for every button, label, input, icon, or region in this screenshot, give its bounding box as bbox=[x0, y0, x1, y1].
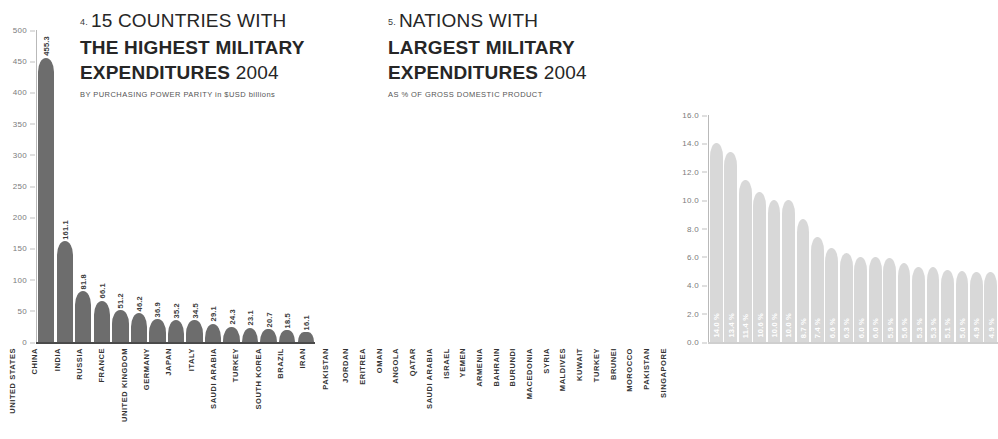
right-chart-bar-slot: 5.1 % bbox=[940, 115, 954, 342]
left-chart-category-label: UNITED STATES bbox=[8, 348, 17, 414]
right-chart-bar-value-label: 5.3 % bbox=[929, 318, 938, 338]
right-chart-bar-value-label: 5.6 % bbox=[900, 318, 909, 338]
right-chart-category-slot: BAHRAIN bbox=[487, 346, 504, 436]
right-chart-bar[interactable]: 5.3 % bbox=[912, 267, 925, 342]
right-chart-bar-slot: 8.7 % bbox=[796, 115, 810, 342]
left-chart-category-label: SOUTH KOREA bbox=[253, 348, 262, 409]
left-chart-bar[interactable]: 18.5 bbox=[279, 330, 295, 342]
left-chart-bar[interactable]: 51.2 bbox=[112, 310, 128, 342]
right-chart-title-text1: NATIONS WITH bbox=[399, 10, 538, 31]
left-chart-bar[interactable]: 66.1 bbox=[94, 301, 110, 342]
right-chart-category-slot: SAUDI ARABIA bbox=[421, 346, 438, 436]
left-chart-plot-area: 500450400350300250200150100500 455.3161.… bbox=[36, 30, 315, 342]
left-chart-bars: 455.3161.181.866.151.246.236.935.234.529… bbox=[37, 30, 315, 342]
chart-panel-military-expenditures-usd: 4.15 COUNTRIES WITH THE HIGHEST MILITARY… bbox=[0, 0, 336, 439]
left-chart-y-tick: 150 bbox=[13, 244, 36, 253]
left-chart-x-axis bbox=[36, 342, 315, 344]
right-chart-category-slot: BRUNEI bbox=[604, 346, 621, 436]
right-chart-bar[interactable]: 7.4 % bbox=[811, 237, 824, 342]
left-chart-bar[interactable]: 24.3 bbox=[223, 327, 239, 342]
right-chart-bar-slot: 10.0 % bbox=[767, 115, 781, 342]
right-chart-title-line3: EXPENDITURES 2004 bbox=[388, 60, 658, 85]
left-chart-bar[interactable]: 23.1 bbox=[242, 328, 258, 342]
left-chart-y-tick: 500 bbox=[13, 26, 36, 35]
right-chart-bar[interactable]: 4.9 % bbox=[970, 272, 983, 342]
right-chart-bar[interactable]: 6.3 % bbox=[840, 253, 853, 342]
right-chart-bar[interactable]: 5.1 % bbox=[941, 270, 954, 342]
right-chart-bar[interactable]: 10.0 % bbox=[768, 200, 781, 342]
left-chart-bar[interactable]: 35.2 bbox=[168, 320, 184, 342]
right-chart-number: 5. bbox=[388, 17, 396, 27]
left-chart-bar[interactable]: 34.5 bbox=[186, 320, 202, 342]
right-chart-bar[interactable]: 13.4 % bbox=[724, 152, 737, 342]
left-chart-bar-value-label: 36.9 bbox=[153, 302, 162, 317]
right-chart-bar[interactable]: 4.9 % bbox=[984, 272, 997, 342]
left-chart-bar[interactable]: 36.9 bbox=[149, 319, 165, 342]
right-chart-bar-value-label: 7.4 % bbox=[813, 318, 822, 338]
left-chart-bar-value-label: 18.5 bbox=[283, 313, 292, 328]
right-chart-bar-slot: 5.9 % bbox=[882, 115, 896, 342]
left-chart-category-slot: INDIA bbox=[46, 346, 68, 436]
right-chart-category-slot: ISRAEL bbox=[437, 346, 454, 436]
right-chart-bar[interactable]: 5.0 % bbox=[956, 271, 969, 342]
right-chart-bar[interactable]: 6.0 % bbox=[869, 257, 882, 342]
right-chart-bar[interactable]: 5.6 % bbox=[898, 263, 911, 342]
left-chart-bar[interactable]: 16.1 bbox=[298, 332, 314, 342]
right-chart-category-label: ANGOLA bbox=[391, 348, 400, 384]
left-chart-bar-value-label: 35.2 bbox=[171, 303, 180, 318]
right-chart-bar[interactable]: 5.9 % bbox=[883, 258, 896, 342]
right-chart-bar[interactable]: 6.6 % bbox=[825, 248, 838, 342]
right-chart-bar[interactable]: 14.0 % bbox=[710, 143, 723, 342]
left-chart-category-label: BRAZIL bbox=[276, 348, 285, 379]
left-chart-category-slot: CHINA bbox=[23, 346, 45, 436]
right-chart-y-tick: 0.0 bbox=[687, 338, 708, 347]
right-chart-category-slot: JORDAN bbox=[337, 346, 354, 436]
left-chart-bar-slot: 23.1 bbox=[241, 30, 260, 342]
right-chart-category-slot: BURUNDI bbox=[504, 346, 521, 436]
right-chart-category-slot: YEMEN bbox=[454, 346, 471, 436]
left-chart-bar[interactable]: 161.1 bbox=[57, 241, 73, 342]
right-chart-bar-value-label: 10.0 % bbox=[770, 313, 779, 338]
right-chart-title-line1: 5.NATIONS WITH bbox=[388, 8, 658, 35]
right-chart-plot-area: 16.014.012.010.08.06.04.02.00.0 14.0 %13… bbox=[708, 115, 998, 342]
chart-panel-military-expenditures-gdp: 5.NATIONS WITH LARGEST MILITARY EXPENDIT… bbox=[336, 0, 671, 439]
right-chart-category-slot: QATAR bbox=[404, 346, 421, 436]
left-chart-category-slot: TURKEY bbox=[224, 346, 246, 436]
right-chart-y-tick: 14.0 bbox=[682, 139, 708, 148]
right-chart-category-label: SAUDI ARABIA bbox=[424, 348, 433, 409]
left-chart-bar-slot: 35.2 bbox=[167, 30, 186, 342]
right-chart-bar[interactable]: 10.0 % bbox=[782, 200, 795, 342]
left-chart-category-label: UNITED KINGDOM bbox=[119, 348, 128, 422]
left-chart-bar-slot: 18.5 bbox=[278, 30, 297, 342]
right-chart-bar[interactable]: 5.3 % bbox=[927, 267, 940, 342]
left-chart-category-slot: UNITED STATES bbox=[1, 346, 23, 436]
left-chart-bar[interactable]: 29.1 bbox=[205, 324, 221, 342]
right-chart-bar[interactable]: 11.4 % bbox=[739, 180, 752, 342]
left-chart-bar[interactable]: 20.7 bbox=[260, 329, 276, 342]
right-chart-bar-value-label: 6.6 % bbox=[827, 318, 836, 338]
right-chart-bar-slot: 6.3 % bbox=[839, 115, 853, 342]
right-chart-y-tick: 12.0 bbox=[682, 167, 708, 176]
left-chart-y-tick: 200 bbox=[13, 213, 36, 222]
right-chart-y-tick: 8.0 bbox=[687, 224, 708, 233]
left-chart-bar[interactable]: 46.2 bbox=[131, 313, 147, 342]
right-chart-bar-value-label: 6.0 % bbox=[856, 318, 865, 338]
right-chart-bar[interactable]: 8.7 % bbox=[797, 219, 810, 342]
right-chart-bar-slot: 7.4 % bbox=[810, 115, 824, 342]
left-chart-category-label: JAPAN bbox=[164, 348, 173, 376]
left-chart-y-tick: 50 bbox=[18, 306, 37, 315]
left-chart-bar[interactable]: 455.3 bbox=[38, 58, 54, 342]
right-chart-bar[interactable]: 6.0 % bbox=[854, 257, 867, 342]
left-chart-category-slot: ITALY bbox=[180, 346, 202, 436]
right-chart-bar-slot: 6.0 % bbox=[854, 115, 868, 342]
right-chart-category-label: KUWAIT bbox=[575, 348, 584, 381]
left-chart-bar-value-label: 20.7 bbox=[264, 312, 273, 327]
right-chart-bar[interactable]: 10.6 % bbox=[753, 192, 766, 342]
right-chart-category-label: SYRIA bbox=[541, 348, 550, 374]
left-chart-y-tick: 400 bbox=[13, 88, 36, 97]
right-chart-title-year: 2004 bbox=[544, 62, 587, 83]
right-chart-category-label: YEMEN bbox=[458, 348, 467, 377]
right-chart-title-text3: EXPENDITURES bbox=[388, 62, 538, 83]
left-chart-bar[interactable]: 81.8 bbox=[75, 291, 91, 342]
left-chart-category-slot: UNITED KINGDOM bbox=[113, 346, 135, 436]
